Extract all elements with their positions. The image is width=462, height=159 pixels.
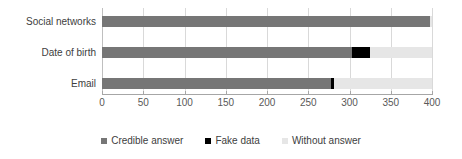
chart-legend: Credible answerFake dataWithout answer xyxy=(0,134,462,147)
x-tick-label-250: 250 xyxy=(300,95,317,111)
category-axis-labels: Social networks Date of birth Email xyxy=(0,8,96,94)
legend-swatch-icon xyxy=(282,138,288,144)
x-tick-mark-0 xyxy=(102,91,103,95)
x-tick-label-150: 150 xyxy=(217,95,234,111)
x-tick-mark-300 xyxy=(350,91,351,95)
x-tick-mark-400 xyxy=(432,91,433,95)
table-row[interactable] xyxy=(102,47,432,58)
x-tick-mark-250 xyxy=(308,91,309,95)
table-row[interactable] xyxy=(102,16,432,27)
legend-item[interactable]: Fake data xyxy=(205,134,259,147)
stacked-bar-chart: Social networks Date of birth Email 0501… xyxy=(0,0,462,159)
x-tick-label-300: 300 xyxy=(341,95,358,111)
category-label-email: Email xyxy=(0,78,96,89)
table-row[interactable] xyxy=(102,78,432,89)
x-axis-tick-labels: 050100150200250300350400 xyxy=(102,95,432,113)
plot-area xyxy=(102,8,432,94)
x-tick-mark-50 xyxy=(143,91,144,95)
x-tick-label-100: 100 xyxy=(176,95,193,111)
x-tick-label-400: 400 xyxy=(424,95,441,111)
bar-segment[interactable] xyxy=(334,78,432,89)
legend-item[interactable]: Without answer xyxy=(282,134,361,147)
gridline-400 xyxy=(432,8,433,94)
x-tick-mark-150 xyxy=(226,91,227,95)
legend-swatch-icon xyxy=(101,138,107,144)
x-tick-mark-200 xyxy=(267,91,268,95)
category-label-social-networks: Social networks xyxy=(0,16,96,27)
x-tick-label-200: 200 xyxy=(259,95,276,111)
legend-item-label: Fake data xyxy=(215,134,259,147)
legend-item-label: Without answer xyxy=(292,134,361,147)
bar-segment[interactable] xyxy=(102,78,331,89)
x-tick-label-50: 50 xyxy=(138,95,149,111)
x-tick-mark-350 xyxy=(391,91,392,95)
bar-segment[interactable] xyxy=(430,16,432,27)
legend-swatch-icon xyxy=(205,138,211,144)
x-tick-label-0: 0 xyxy=(99,95,105,111)
bar-rows xyxy=(102,8,432,94)
bar-segment[interactable] xyxy=(370,47,432,58)
x-tick-label-350: 350 xyxy=(382,95,399,111)
x-tick-mark-100 xyxy=(185,91,186,95)
legend-item-label: Credible answer xyxy=(111,134,183,147)
legend-item[interactable]: Credible answer xyxy=(101,134,183,147)
bar-segment[interactable] xyxy=(102,16,430,27)
bar-segment[interactable] xyxy=(102,47,352,58)
category-label-date-of-birth: Date of birth xyxy=(0,47,96,58)
bar-segment[interactable] xyxy=(352,47,370,58)
